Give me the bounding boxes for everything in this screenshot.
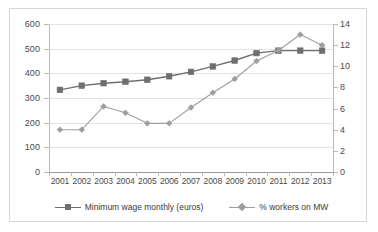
- right-axis-tick-label: 4: [340, 126, 362, 135]
- right-axis-tick: [333, 87, 338, 88]
- left-axis-tick-label: 600: [0, 20, 40, 29]
- right-axis-tick-label: 10: [340, 62, 362, 71]
- right-axis-tick: [333, 24, 338, 25]
- right-axis-tick: [333, 45, 338, 46]
- left-axis-tick-label: 200: [0, 119, 40, 128]
- right-axis-tick: [333, 130, 338, 131]
- x-axis-tick-label: 2013: [307, 177, 337, 186]
- right-axis-tick-label: 12: [340, 41, 362, 50]
- left-axis-tick: [44, 73, 49, 74]
- right-axis-tick: [333, 151, 338, 152]
- chart-frame: [9, 8, 367, 222]
- chart-legend: Minimum wage monthly (euros) % workers o…: [49, 199, 334, 215]
- gridline: [49, 147, 333, 148]
- right-axis-tick: [333, 109, 338, 110]
- right-axis-tick: [333, 66, 338, 67]
- left-axis-tick-label: 300: [0, 94, 40, 103]
- left-axis-tick-label: 100: [0, 143, 40, 152]
- chart-container: 0100200300400500600 02468101214 20012002…: [0, 0, 378, 232]
- x-axis-tick: [49, 172, 50, 176]
- gridline: [49, 24, 333, 25]
- x-axis-tick: [333, 172, 334, 176]
- legend-item-percent-workers[interactable]: % workers on MW: [229, 202, 328, 212]
- x-axis-line: [49, 172, 334, 173]
- right-axis-tick-label: 6: [340, 105, 362, 114]
- gridline: [49, 73, 333, 74]
- left-axis-tick-label: 0: [0, 168, 40, 177]
- legend-item-minimum-wage[interactable]: Minimum wage monthly (euros): [55, 202, 204, 212]
- diamond-marker-icon: [229, 202, 255, 212]
- x-axis-tick: [180, 172, 181, 176]
- left-axis-tick-label: 500: [0, 45, 40, 54]
- left-axis-tick: [44, 49, 49, 50]
- x-axis-tick: [136, 172, 137, 176]
- legend-label-minimum-wage: Minimum wage monthly (euros): [85, 202, 204, 212]
- gridline: [49, 98, 333, 99]
- x-axis-tick: [289, 172, 290, 176]
- left-axis-tick: [44, 123, 49, 124]
- left-axis-tick: [44, 24, 49, 25]
- left-axis-tick: [44, 147, 49, 148]
- right-axis-tick-label: 0: [340, 168, 362, 177]
- gridline: [49, 123, 333, 124]
- left-axis-tick-label: 400: [0, 69, 40, 78]
- gridline: [49, 49, 333, 50]
- x-axis-tick: [311, 172, 312, 176]
- right-axis-tick-label: 8: [340, 83, 362, 92]
- x-axis-tick: [267, 172, 268, 176]
- x-axis-tick: [202, 172, 203, 176]
- left-axis-tick: [44, 98, 49, 99]
- right-axis-tick-label: 2: [340, 147, 362, 156]
- square-marker-icon: [55, 202, 81, 212]
- right-axis-tick-label: 14: [340, 20, 362, 29]
- x-axis-tick: [71, 172, 72, 176]
- x-axis-tick: [158, 172, 159, 176]
- legend-label-percent-workers: % workers on MW: [259, 202, 328, 212]
